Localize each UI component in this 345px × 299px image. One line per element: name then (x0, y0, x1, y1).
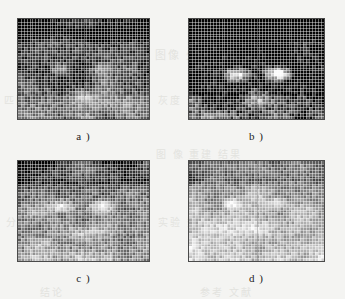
figure-panel-a: a ) (17, 18, 150, 120)
panel-label-c: c ) (17, 272, 150, 284)
panel-label-d: d ) (188, 272, 325, 284)
mosaic-image-c (17, 160, 150, 262)
mosaic-image-d (188, 160, 325, 262)
panel-label-b: b ) (188, 130, 325, 142)
figure-panel-b: b ) (188, 18, 325, 120)
figure-panel-d: d ) (188, 160, 325, 262)
mosaic-image-b (188, 18, 325, 120)
figure-panel-c: c ) (17, 160, 150, 262)
mosaic-image-a (17, 18, 150, 120)
panel-label-a: a ) (17, 130, 150, 142)
